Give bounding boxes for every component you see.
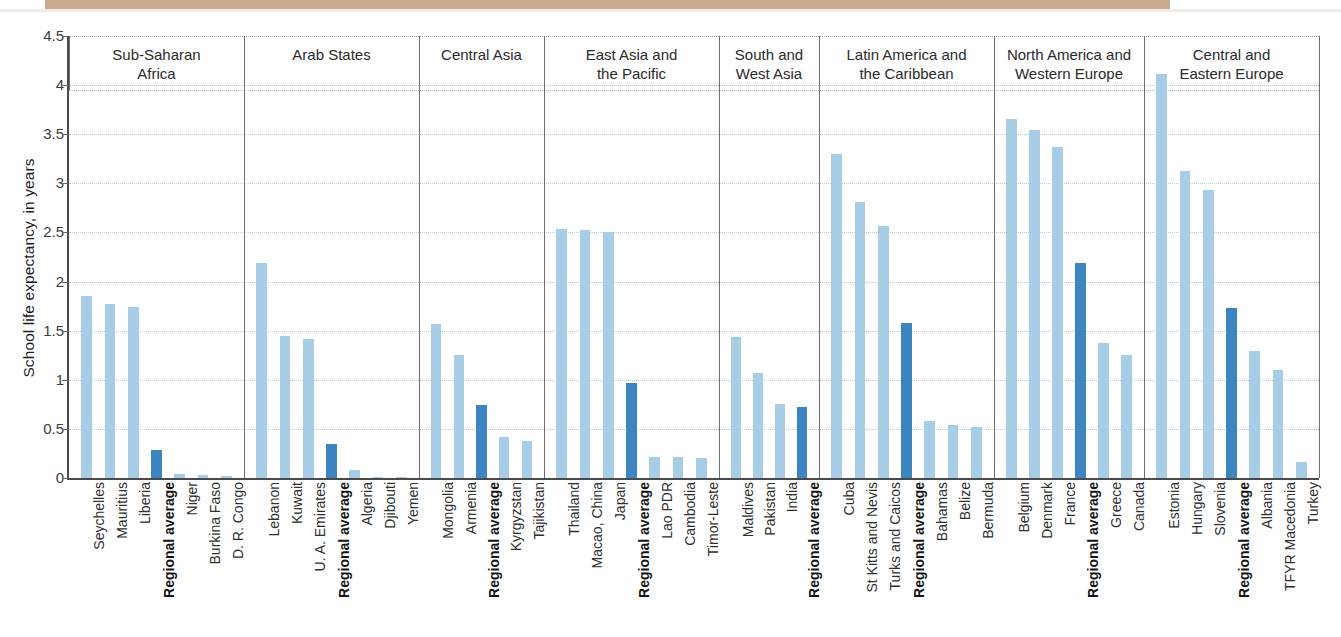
country-bar[interactable] bbox=[948, 425, 959, 478]
country-bar[interactable] bbox=[396, 477, 407, 479]
country-bar[interactable] bbox=[1203, 190, 1214, 478]
country-bar[interactable] bbox=[105, 304, 116, 478]
x-axis-category-labels: SeychellesMauritiusLiberiaRegional avera… bbox=[69, 482, 1319, 637]
x-category-label: Tajikistan bbox=[532, 482, 546, 540]
country-bar[interactable] bbox=[673, 457, 684, 478]
country-bar[interactable] bbox=[878, 226, 889, 478]
x-category-label: Regional average bbox=[162, 482, 176, 598]
country-bar[interactable] bbox=[556, 229, 567, 478]
x-category-label: Regional average bbox=[637, 482, 651, 598]
y-tick-mark bbox=[62, 331, 68, 332]
country-bar[interactable] bbox=[924, 421, 935, 478]
country-bar[interactable] bbox=[580, 230, 591, 479]
country-bar[interactable] bbox=[696, 458, 707, 478]
country-bar[interactable] bbox=[1006, 119, 1017, 478]
country-bar[interactable] bbox=[373, 477, 384, 479]
panel-bars bbox=[419, 36, 544, 478]
y-tick-label: 2 bbox=[18, 273, 64, 290]
x-category-label: Canada bbox=[1132, 482, 1146, 531]
country-bar[interactable] bbox=[198, 475, 209, 478]
x-category-label: Cambodia bbox=[683, 482, 697, 546]
country-bar[interactable] bbox=[775, 404, 785, 478]
country-bar[interactable] bbox=[1180, 171, 1191, 478]
x-category-label: Seychelles bbox=[92, 482, 106, 550]
y-tick-label: 1.5 bbox=[18, 322, 64, 339]
country-bar[interactable] bbox=[174, 474, 185, 478]
country-bar[interactable] bbox=[81, 296, 92, 478]
country-bar[interactable] bbox=[1098, 343, 1109, 478]
y-axis-tick-labels: 4.543.532.521.510.50 bbox=[18, 12, 64, 532]
country-bar[interactable] bbox=[1052, 147, 1063, 478]
country-bar[interactable] bbox=[454, 355, 464, 478]
panel-bars bbox=[719, 36, 819, 478]
country-bar[interactable] bbox=[349, 470, 360, 478]
plot-right-border bbox=[1319, 36, 1320, 478]
regional-average-bar[interactable] bbox=[326, 444, 337, 478]
country-bar[interactable] bbox=[831, 154, 842, 478]
x-category-label: Japan bbox=[613, 482, 627, 520]
top-strip-right-gap bbox=[1170, 0, 1341, 9]
country-bar[interactable] bbox=[303, 339, 314, 478]
country-bar[interactable] bbox=[1249, 351, 1260, 478]
y-tick-label: 1 bbox=[18, 371, 64, 388]
plot-area: Sub-SaharanAfricaArab StatesCentral Asia… bbox=[69, 36, 1319, 478]
x-category-label: Niger bbox=[185, 482, 199, 515]
country-bar[interactable] bbox=[431, 324, 441, 478]
country-bar[interactable] bbox=[1156, 74, 1167, 478]
y-tick-label: 2.5 bbox=[18, 223, 64, 240]
country-bar[interactable] bbox=[603, 232, 614, 478]
x-category-label: Estonia bbox=[1167, 482, 1181, 529]
x-category-label: St Kitts and Nevis bbox=[865, 482, 879, 593]
regional-average-bar[interactable] bbox=[476, 405, 486, 478]
regional-average-bar[interactable] bbox=[151, 450, 162, 478]
country-bar[interactable] bbox=[1273, 370, 1284, 478]
x-category-label: Regional average bbox=[1237, 482, 1251, 598]
chart-figure: School life expectancy, in years 4.543.5… bbox=[0, 12, 1341, 637]
chart-panel: North America andWestern Europe bbox=[994, 36, 1144, 478]
country-bar[interactable] bbox=[1029, 130, 1040, 478]
x-category-label: Algeria bbox=[360, 482, 374, 526]
x-category-label: Cuba bbox=[842, 482, 856, 515]
country-bar[interactable] bbox=[1296, 462, 1307, 478]
x-category-label: Lebanon bbox=[267, 482, 281, 537]
x-category-label: Armenia bbox=[464, 482, 478, 534]
regional-average-bar[interactable] bbox=[901, 323, 912, 478]
country-bar[interactable] bbox=[971, 427, 982, 478]
x-category-label: Regional average bbox=[912, 482, 926, 598]
country-bar[interactable] bbox=[221, 476, 232, 478]
x-category-label: Burkina Faso bbox=[208, 482, 222, 564]
country-bar[interactable] bbox=[649, 457, 660, 478]
country-bar[interactable] bbox=[1121, 355, 1132, 478]
regional-average-bar[interactable] bbox=[1075, 263, 1086, 478]
panel-bars bbox=[69, 36, 244, 478]
country-bar[interactable] bbox=[522, 441, 532, 478]
regional-average-bar[interactable] bbox=[626, 383, 637, 478]
chart-panel: Latin America andthe Caribbean bbox=[819, 36, 994, 478]
x-category-label: Greece bbox=[1109, 482, 1123, 528]
country-bar[interactable] bbox=[753, 373, 763, 478]
y-tick-label: 3.5 bbox=[18, 125, 64, 142]
country-bar[interactable] bbox=[855, 202, 866, 478]
chart-panel: Sub-SaharanAfrica bbox=[69, 36, 244, 478]
regional-average-bar[interactable] bbox=[797, 407, 807, 478]
country-bar[interactable] bbox=[256, 263, 267, 478]
y-tick-label: 3 bbox=[18, 174, 64, 191]
x-category-label: Regional average bbox=[1086, 482, 1100, 598]
x-category-label: Hungary bbox=[1190, 482, 1204, 535]
x-category-label: Kyrgyzstan bbox=[509, 482, 523, 551]
country-bar[interactable] bbox=[128, 307, 139, 478]
country-bar[interactable] bbox=[280, 336, 291, 478]
x-category-label: D. R. Congo bbox=[231, 482, 245, 559]
x-axis-baseline bbox=[67, 478, 1319, 480]
chart-panel: South andWest Asia bbox=[719, 36, 819, 478]
country-bar[interactable] bbox=[731, 337, 741, 478]
regional-average-bar[interactable] bbox=[1226, 308, 1237, 478]
y-tick-mark bbox=[62, 282, 68, 283]
y-tick-mark bbox=[62, 380, 68, 381]
x-category-label: U. A. Emirates bbox=[313, 482, 327, 571]
plot-left-edge bbox=[69, 36, 70, 90]
country-bar[interactable] bbox=[499, 437, 509, 478]
y-tick-mark bbox=[62, 478, 68, 479]
panel-bars bbox=[994, 36, 1144, 478]
x-category-label: Lao PDR bbox=[660, 482, 674, 539]
